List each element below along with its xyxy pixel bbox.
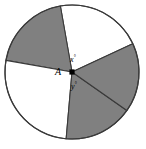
center-vertex-dot: [69, 69, 74, 74]
angle-label-x-degree: °: [74, 54, 76, 60]
sector-lower-right-white: [5, 60, 72, 138]
circle-sector-diagram: A x° y°: [0, 0, 146, 149]
figure-container: A x° y°: [0, 0, 146, 149]
vertex-label-a: A: [54, 66, 62, 77]
angle-label-y-degree: °: [75, 81, 77, 87]
